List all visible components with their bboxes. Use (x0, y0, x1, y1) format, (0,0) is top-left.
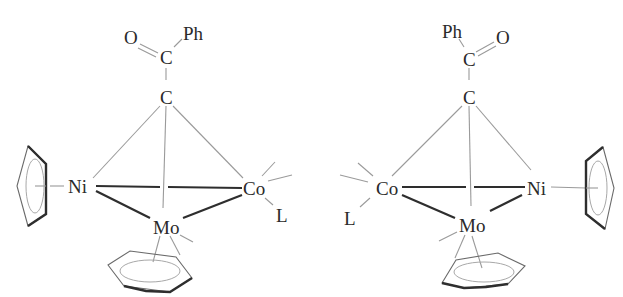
mo-ligand-line (439, 232, 457, 241)
co-mo-bond (402, 195, 455, 218)
c-co-bond (173, 106, 243, 178)
mo-arene-inner-ellipse (454, 262, 514, 282)
right-molecule: Ph O C C Co Ni L Mo (340, 21, 614, 288)
mo-ligand-line (180, 235, 193, 242)
nickel-label: Ni (68, 176, 87, 197)
c-mo-bond (163, 106, 166, 208)
chemical-structure-diagram: O Ph C C Ni Co L Mo (0, 0, 623, 297)
c-co-bond (392, 106, 462, 176)
c-mo-bond (469, 106, 471, 206)
cobalt-label: Co (243, 178, 265, 199)
ni-mo-bond (96, 191, 150, 218)
carbonyl-double-bond-a (140, 44, 158, 53)
co-ligand-line-2 (268, 175, 292, 181)
co-ligand-line-1 (262, 162, 275, 176)
oxygen-label: O (124, 27, 138, 48)
mo-arene-bond-2 (170, 236, 180, 255)
ni-mo-bond (490, 195, 522, 211)
c-ni-bond (476, 106, 531, 170)
carbonyl-carbon-label: C (463, 49, 476, 70)
molybdenum-label: Mo (153, 217, 179, 238)
cluster-carbon-label: C (160, 87, 173, 108)
ni-co-bond-left (96, 186, 160, 187)
phenyl-bond (174, 39, 182, 47)
nickel-label: Ni (527, 178, 546, 199)
co-ligand-line-1 (358, 163, 373, 176)
co-ligand-line-2 (340, 175, 368, 182)
co-l-bond (265, 198, 273, 205)
ligand-label: L (344, 208, 356, 229)
carbonyl-double-bond-a (476, 42, 494, 52)
cobalt-label: Co (376, 178, 398, 199)
carbonyl-double-bond-b (138, 48, 156, 57)
mo-arene-bold-edge (442, 283, 508, 288)
ni-cp-bond (551, 187, 586, 188)
oxygen-label: O (496, 27, 510, 48)
mo-arene-bond-1 (153, 236, 160, 262)
co-l-bond (360, 198, 370, 207)
mo-arene-bond-2 (472, 236, 482, 268)
phenyl-label: Ph (183, 23, 204, 44)
carbonyl-double-bond-b (478, 46, 496, 56)
mo-arene-bond-1 (455, 235, 465, 258)
carbonyl-carbon-label: C (160, 47, 173, 68)
molybdenum-label: Mo (459, 215, 485, 236)
ligand-label: L (276, 205, 288, 226)
left-molecule: O Ph C C Ni Co L Mo (17, 23, 292, 292)
cluster-carbon-label: C (463, 87, 476, 108)
phenyl-label: Ph (442, 21, 463, 42)
mo-arene-inner-ellipse (120, 260, 180, 282)
co-mo-bond (183, 195, 242, 218)
ni-co-bond-right (168, 187, 242, 188)
c-ni-bond (93, 106, 160, 178)
